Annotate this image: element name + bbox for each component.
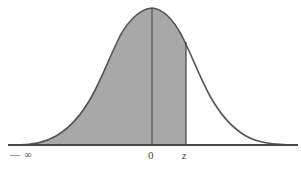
normal-distribution-figure: — ∞ 0 z: [0, 0, 301, 169]
axis-tick-label-negative-infinity: — ∞: [10, 150, 33, 160]
axis-tick-label-z: z: [182, 150, 186, 161]
distribution-chart-svg: [0, 0, 301, 169]
axis-tick-label-zero: 0: [148, 150, 154, 161]
